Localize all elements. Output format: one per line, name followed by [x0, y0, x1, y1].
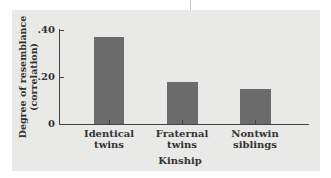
y-tick-label-020: .20 — [25, 72, 55, 82]
x-axis-label: Kinship — [150, 155, 210, 166]
x-tick-fraternal — [182, 120, 183, 124]
y-tick-label-040: .40 — [25, 25, 55, 35]
category-label-identical-twins: Identical twins — [74, 128, 144, 150]
category-label-line: siblings — [220, 139, 290, 150]
category-label-fraternal-twins: Fraternal twins — [147, 128, 217, 150]
x-tick-nontwin — [255, 120, 256, 124]
bar-nontwin-siblings — [240, 89, 271, 124]
category-label-line: Nontwin — [220, 128, 290, 139]
decorative-divider-line — [190, 0, 191, 10]
category-label-line: Identical — [74, 128, 144, 139]
x-tick-identical — [109, 120, 110, 124]
category-label-line: Fraternal — [147, 128, 217, 139]
bar-identical-twins — [94, 37, 124, 124]
category-label-line: twins — [147, 139, 217, 150]
y-tick-label-0: 0 — [25, 119, 55, 129]
category-label-nontwin-siblings: Nontwin siblings — [220, 128, 290, 150]
y-tick-040 — [60, 30, 64, 31]
y-tick-020 — [60, 77, 64, 78]
x-axis-line — [59, 124, 309, 125]
category-label-line: twins — [74, 139, 144, 150]
bar-fraternal-twins — [167, 82, 198, 124]
